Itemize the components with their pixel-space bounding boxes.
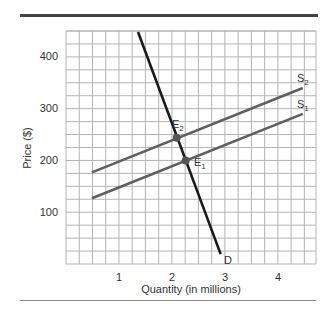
x-tick-2: 2: [169, 271, 175, 283]
equilibrium-point-e1: [182, 156, 190, 164]
s1-label: S1: [297, 98, 309, 113]
s2-label: S2: [297, 72, 309, 87]
y-tick-400: 400: [40, 50, 58, 62]
y-axis-title: Price ($): [21, 127, 33, 169]
e2-label-sub: 2: [179, 124, 184, 133]
e1-label: E1: [194, 156, 206, 171]
s2-label-main: S: [297, 72, 304, 84]
y-tick-100: 100: [40, 206, 58, 218]
y-tick-300: 300: [40, 102, 58, 114]
curves: [92, 32, 303, 254]
x-tick-4: 4: [275, 271, 281, 283]
e1-label-main: E: [194, 156, 201, 168]
demand-curve: [138, 32, 221, 254]
equilibrium-point-e2: [173, 134, 181, 142]
chart-canvas: 400 300 200 100 1 2 3 4 Quantity (in mil…: [0, 0, 332, 313]
e2-label-main: E: [172, 118, 179, 130]
x-axis-title: Quantity (in millions): [141, 283, 241, 295]
x-tick-1: 1: [116, 271, 122, 283]
s1-label-sub: 1: [304, 104, 309, 113]
x-tick-3: 3: [222, 271, 228, 283]
grid: [66, 31, 316, 264]
y-tick-200: 200: [40, 154, 58, 166]
bottom-rule: [20, 300, 316, 301]
e1-label-sub: 1: [201, 162, 206, 171]
s2-label-sub: 2: [304, 78, 309, 87]
s1-label-main: S: [297, 98, 304, 110]
demand-label: D: [224, 254, 232, 266]
